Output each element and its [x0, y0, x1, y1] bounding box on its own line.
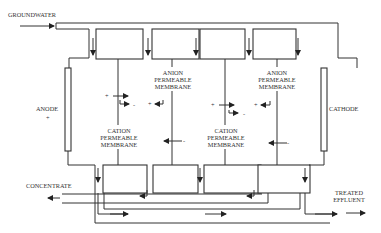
cathode-outlet-pipe [309, 151, 324, 165]
groundwater-label: GROUNDWATER [8, 11, 57, 18]
top-compartment-3 [253, 29, 296, 59]
svg-text:PERMEABLE: PERMEABLE [207, 134, 245, 141]
cation-sign: + [211, 101, 215, 108]
anion-sign: - [133, 101, 135, 108]
svg-text:MEMBRANE: MEMBRANE [259, 83, 296, 90]
bottom-compartment-4 [258, 165, 310, 193]
top-compartment-2 [152, 29, 199, 59]
anion-membrane-1-label: ANION PERMEABLE MEMBRANE [149, 67, 197, 91]
svg-text:CATION: CATION [107, 127, 131, 134]
cathode-label: CATHODE [329, 105, 359, 112]
svg-text:CATION: CATION [214, 127, 238, 134]
svg-text:PERMEABLE: PERMEABLE [154, 76, 192, 83]
anode-label: ANODE [36, 105, 58, 112]
svg-text:PERMEABLE: PERMEABLE [100, 134, 138, 141]
cation-blocked-arrow [120, 100, 129, 104]
anion-blocked-arrow [261, 101, 270, 105]
treated-effluent-label-line2: EFFLUENT [333, 196, 365, 203]
top-compartment-1 [96, 29, 143, 59]
cation-membrane-1-label: CATION PERMEABLE MEMBRANE [95, 125, 143, 149]
cation-sign: + [105, 92, 109, 99]
cation-sign: + [254, 101, 258, 108]
cathode-electrode [321, 68, 327, 151]
svg-text:ANION: ANION [267, 69, 288, 76]
anode-electrode [65, 68, 71, 151]
anion-sign: - [243, 110, 245, 117]
bottom-compartment-3 [204, 165, 261, 193]
bottom-compartment-2 [153, 165, 198, 193]
anode-sign: + [46, 114, 50, 121]
cation-blocked-arrow [229, 110, 238, 113]
cation-membrane-2-label: CATION PERMEABLE MEMBRANE [202, 125, 250, 149]
anion-membrane-2-label: ANION PERMEABLE MEMBRANE [253, 67, 301, 91]
anion-blocked-arrow [155, 100, 163, 104]
anion-sign: - [183, 137, 185, 144]
bottom-compartment-1 [103, 165, 147, 193]
cation-sign: + [148, 100, 152, 107]
concentrate-label: CONCENTRATE [26, 182, 72, 189]
anion-sign: - [287, 139, 289, 146]
concentrate-pipe [62, 193, 268, 203]
svg-text:MEMBRANE: MEMBRANE [208, 141, 245, 148]
svg-text:MEMBRANE: MEMBRANE [155, 83, 192, 90]
svg-text:MEMBRANE: MEMBRANE [101, 141, 138, 148]
electrodialysis-diagram: GROUNDWATER ANODE + CATHODE ANION PERMEA… [0, 0, 381, 233]
treated-effluent-label-line1: TREATED [335, 189, 363, 196]
svg-text:ANION: ANION [163, 69, 184, 76]
top-compartment-mid [200, 29, 245, 59]
svg-text:PERMEABLE: PERMEABLE [258, 76, 296, 83]
